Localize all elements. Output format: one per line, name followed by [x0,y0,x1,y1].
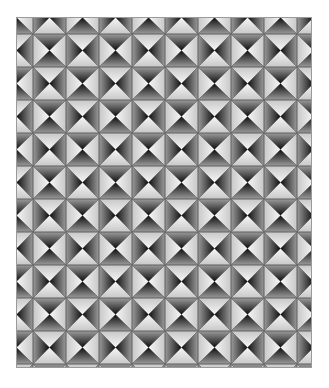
tile-triangle-top [66,364,99,368]
figure-root [0,0,329,388]
tile-triangle-top [198,364,231,368]
tile-triangle-top [99,364,132,368]
tile-triangle-top [33,364,66,368]
tiling-pattern-panel [16,17,312,368]
tile-triangle-top [132,364,165,368]
tile-triangles-layer [16,17,312,368]
tile-triangle-top [165,364,198,368]
tiling-pattern-svg [16,17,312,368]
tile-triangle-top [264,364,297,368]
tile-triangle-top [231,364,264,368]
